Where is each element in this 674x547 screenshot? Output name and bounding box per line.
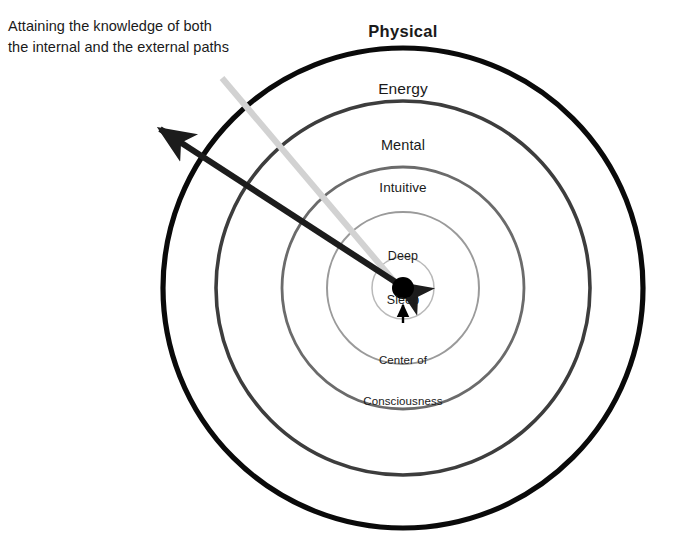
consciousness-layers-diagram: Attaining the knowledge of both the inte… <box>0 0 674 547</box>
center-node-label: Center of Consciousness <box>345 327 461 436</box>
ring-label-physical: Physical <box>353 22 453 41</box>
ring-label-deep-sleep: Deep Sleep <box>363 219 443 337</box>
center-label-line-2: Consciousness <box>345 395 461 409</box>
caption-line-2: the internal and the external paths <box>8 37 308 58</box>
diagram-caption: Attaining the knowledge of both the inte… <box>8 16 308 58</box>
ring-label-mental: Mental <box>358 137 448 154</box>
ring-label-energy: Energy <box>356 80 450 98</box>
deep-sleep-line-2: Sleep <box>363 293 443 308</box>
diagram-canvas <box>0 0 674 547</box>
ring-label-intuitive: Intuitive <box>358 180 448 196</box>
caption-line-1: Attaining the knowledge of both <box>8 16 308 37</box>
center-label-line-1: Center of <box>345 354 461 368</box>
deep-sleep-line-1: Deep <box>363 249 443 264</box>
